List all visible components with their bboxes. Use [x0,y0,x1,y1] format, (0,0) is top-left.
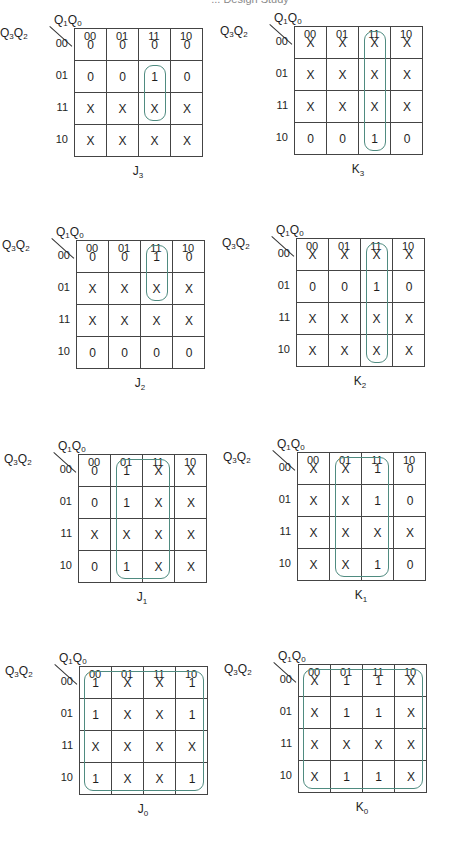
row-header: 00 [52,463,72,475]
kmap-cell: X [107,125,139,157]
row-variable-label: Q3Q2 [0,27,28,43]
kmap-grid: 1XX11XX1XXXX1XX1 [79,666,208,795]
kmap-cell: X [329,335,361,367]
row-header: 11 [271,525,291,537]
row-header: 00 [270,247,290,259]
kmap-cell: X [75,93,107,125]
kmap-j0: Q1Q0Q3Q200011110000111101XX11XX1XXXX1XX1… [5,652,220,852]
grouping-loop [146,245,168,301]
kmap-cell: X [141,305,173,337]
kmap-grid: 00000010XXXXXXXX [74,28,203,157]
row-variable-label: Q3Q2 [4,453,32,469]
row-header: 01 [53,707,73,719]
kmap-cell: X [393,239,425,271]
row-header: 00 [53,675,73,687]
kmap-cell: X [175,487,207,519]
kmap-cell: 0 [394,549,426,581]
kmap-cell: X [327,91,359,123]
map-title: J2 [120,376,160,392]
kmap-cell: 0 [141,337,173,369]
kmap-cell: 0 [79,455,111,487]
row-variable-label: Q3Q2 [2,239,30,255]
kmap-grid: XXXX0010XXXXXXXX [296,238,425,367]
grouping-loop [335,457,389,577]
row-header: 10 [53,771,73,783]
row-header: 10 [50,345,70,357]
kmap-cell: 0 [297,271,329,303]
row-variable-label: Q3Q2 [222,237,250,253]
kmap-cell: X [298,549,330,581]
kmap-cell: 0 [107,29,139,61]
kmap-cell: 0 [295,123,327,155]
kmap-cell: X [171,93,203,125]
row-header: 01 [268,67,288,79]
kmap-cell: 0 [393,271,425,303]
row-header: 11 [272,737,292,749]
row-header: 01 [272,705,292,717]
kmap-cell: X [175,455,207,487]
kmap-cell: X [77,273,109,305]
kmap-cell: X [327,27,359,59]
kmap-cell: X [109,273,141,305]
kmap-cell: 0 [173,337,205,369]
kmap-cell: X [171,125,203,157]
kmap-cell: X [295,27,327,59]
row-header: 10 [271,557,291,569]
row-header: 10 [272,769,292,781]
row-header: 11 [48,101,68,113]
grouping-loop [303,669,423,789]
kmap-grid: XX10XX10XXXXXX10 [297,452,426,581]
kmap-cell: X [391,27,423,59]
kmap-cell: X [394,517,426,549]
row-header: 11 [268,99,288,111]
grouping-loop [366,243,388,363]
kmap-j3: Q1Q0Q3Q2000111100001111000000010XXXXXXXX… [0,14,215,214]
kmap-cell: 0 [77,241,109,273]
kmap-cell: 0 [171,29,203,61]
kmap-grid: 0010XXXXXXXX0000 [76,240,205,369]
grouping-loop [364,31,386,151]
kmap-cell: 0 [109,337,141,369]
kmap-cell: X [173,273,205,305]
row-header: 10 [270,343,290,355]
page-header-text: ... Design Study [175,0,325,5]
kmap-cell: X [298,517,330,549]
kmap-cell: X [295,59,327,91]
kmap-cell: 0 [171,61,203,93]
row-header: 01 [52,495,72,507]
kmap-cell: X [297,303,329,335]
kmap-cell: 0 [173,241,205,273]
kmap-grid: 01XX01XXXXXX01XX [78,454,207,583]
kmap-cell: X [77,305,109,337]
kmap-cell: X [329,239,361,271]
row-header: 00 [50,249,70,261]
map-title: K2 [340,374,380,390]
kmap-cell: X [329,303,361,335]
kmap-cell: X [175,551,207,583]
row-header: 11 [52,527,72,539]
row-header: 10 [48,133,68,145]
row-header: 01 [48,69,68,81]
row-variable-label: Q3Q2 [223,451,251,467]
kmap-cell: X [391,59,423,91]
map-title: J0 [123,802,163,818]
kmap-cell: X [298,453,330,485]
kmap-cell: 0 [109,241,141,273]
kmap-grid: XXXXXXXXXXXX0010 [294,26,423,155]
kmap-cell: X [79,519,111,551]
kmap-cell: 0 [79,551,111,583]
kmap-cell: X [139,125,171,157]
kmap-cell: 0 [391,123,423,155]
row-header: 00 [271,461,291,473]
kmap-cell: 0 [327,123,359,155]
row-header: 00 [48,37,68,49]
row-header: 11 [270,311,290,323]
kmap-cell: X [298,485,330,517]
kmap-cell: 0 [394,485,426,517]
row-variable-label: Q3Q2 [220,25,248,41]
kmap-cell: X [75,125,107,157]
kmap-cell: X [297,335,329,367]
row-header: 01 [270,279,290,291]
kmap-cell: X [393,335,425,367]
grouping-loop [84,671,204,791]
